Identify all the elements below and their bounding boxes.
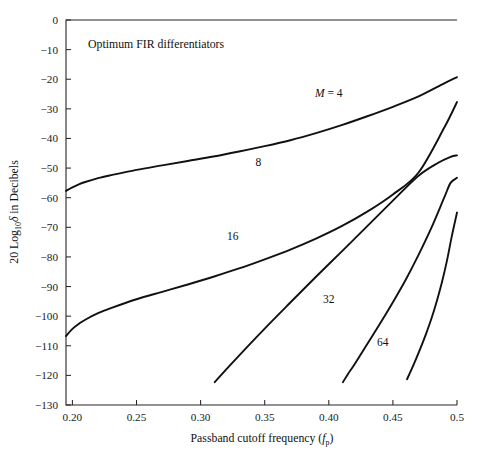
x-tick-label: 0.20 — [63, 411, 83, 423]
curve-label: M = 4 — [314, 87, 343, 99]
y-tick-label: 0 — [52, 14, 58, 26]
y-tick-label: −50 — [41, 162, 59, 174]
curve-label: 32 — [323, 293, 335, 305]
y-tick-label: −110 — [35, 340, 58, 352]
y-tick-label: −100 — [35, 310, 58, 322]
x-axis-title: Passband cutoff frequency (fp) — [191, 431, 334, 447]
y-tick-label: −30 — [41, 103, 59, 115]
y-tick-label: −10 — [41, 44, 59, 56]
x-axis-ticks: 0.200.250.300.350.400.450.5 — [63, 400, 465, 423]
y-tick-label: −40 — [41, 132, 59, 144]
curve-m-4 — [66, 77, 457, 191]
x-tick-label: 0.25 — [127, 411, 147, 423]
x-tick-label: 0.35 — [255, 411, 275, 423]
y-tick-label: −80 — [41, 251, 59, 263]
y-tick-label: −120 — [35, 369, 58, 381]
curve-label: 8 — [255, 156, 261, 168]
y-tick-label: −90 — [41, 281, 59, 293]
x-tick-label: 0.45 — [383, 411, 403, 423]
y-tick-label: −70 — [41, 221, 59, 233]
curve-8 — [66, 102, 457, 336]
plot-axes — [66, 20, 457, 405]
chart-annotation-note: Optimum FIR differentiators — [88, 37, 224, 51]
optimum-fir-differentiators-chart: 0−10−20−30−40−50−60−70−80−90−100−110−120… — [0, 0, 482, 466]
x-tick-label: 0.5 — [450, 411, 464, 423]
x-tick-label: 0.40 — [319, 411, 339, 423]
curve-label: 64 — [377, 336, 389, 348]
x-tick-label: 0.30 — [191, 411, 211, 423]
y-tick-label: −20 — [41, 73, 59, 85]
y-tick-label: −60 — [41, 192, 59, 204]
figure-container: 0−10−20−30−40−50−60−70−80−90−100−110−120… — [0, 0, 482, 466]
curve-labels: M = 48163264 — [227, 87, 389, 348]
y-tick-label: −130 — [35, 399, 58, 411]
y-axis-title: 20 Log10δ in Decibels — [7, 160, 23, 264]
curve-32 — [343, 178, 457, 382]
data-curves — [66, 77, 457, 382]
curve-64 — [407, 213, 457, 380]
curve-label: 16 — [227, 230, 239, 242]
axis-frame — [66, 20, 457, 405]
